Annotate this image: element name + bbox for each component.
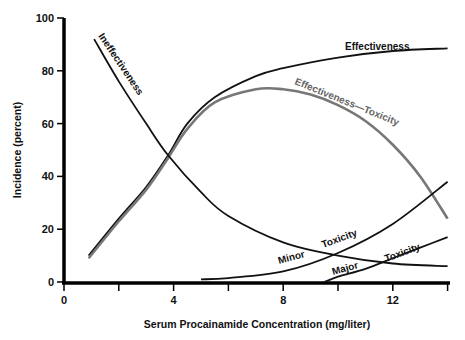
label-effectiveness-toxicity: Effectiveness—Toxicity <box>293 76 401 128</box>
y-tick-label: 20 <box>42 223 54 235</box>
y-tick-label: 40 <box>42 170 54 182</box>
series-lines <box>89 39 448 282</box>
label-major-toxicity: Toxicity <box>383 241 422 264</box>
y-axis-label: Incidence (percent) <box>11 102 23 198</box>
x-axis-label: Serum Procainamide Concentration (mg/lit… <box>144 318 370 330</box>
y-tick-label: 60 <box>42 118 54 130</box>
series-ineffectiveness <box>94 39 447 266</box>
y-ticks: 020406080100 <box>36 12 64 288</box>
x-tick-label: 0 <box>61 294 67 306</box>
x-tick-label: 4 <box>171 294 178 306</box>
label-effectiveness: Effectiveness <box>345 41 410 52</box>
x-tick-label: 12 <box>387 294 399 306</box>
x-tick-label: 8 <box>280 294 286 306</box>
y-tick-label: 0 <box>48 276 54 288</box>
chart: 020406080100 04812 Serum Procainamide Co… <box>0 0 465 340</box>
y-tick-label: 80 <box>42 65 54 77</box>
label-minor: Minor <box>277 248 306 266</box>
series-effectiveness <box>89 48 448 255</box>
label-ineffectiveness: Ineffectiveness <box>96 31 146 97</box>
x-ticks: 04812 <box>61 283 448 306</box>
y-tick-label: 100 <box>36 12 54 24</box>
